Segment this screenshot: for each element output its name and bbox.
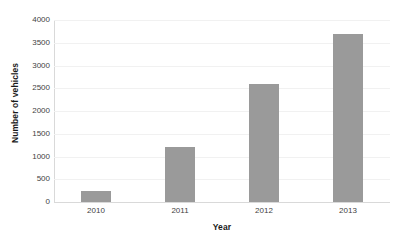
- bars-layer: [54, 20, 390, 202]
- bar[interactable]: [165, 147, 195, 202]
- y-axis-tick-labels: 05001000150020002500300035004000: [0, 20, 50, 202]
- x-axis-tick-label: 2010: [87, 205, 105, 217]
- bar-slot: [306, 20, 390, 202]
- y-axis-tick-label: 0: [4, 198, 50, 206]
- x-axis-tick-labels: 2010201120122013: [54, 205, 390, 219]
- y-axis-tick-label: 500: [4, 175, 50, 183]
- x-axis-title: Year: [54, 222, 390, 232]
- bar-slot: [138, 20, 222, 202]
- y-axis-tick-label: 3500: [4, 39, 50, 47]
- bar-slot: [54, 20, 138, 202]
- y-axis-tick-label: 4000: [4, 16, 50, 24]
- y-axis-tick-label: 1000: [4, 153, 50, 161]
- x-axis-tick-label: 2013: [339, 205, 357, 217]
- bar-chart: Number of vehicles 050010001500200025003…: [0, 0, 402, 244]
- plot-area: [54, 20, 390, 202]
- gridline: [54, 202, 390, 203]
- bar-slot: [222, 20, 306, 202]
- bar[interactable]: [81, 191, 111, 202]
- x-axis-tick-label: 2012: [255, 205, 273, 217]
- y-axis-tick-label: 3000: [4, 62, 50, 70]
- y-axis-tick-label: 2500: [4, 84, 50, 92]
- y-axis-tick-label: 1500: [4, 130, 50, 138]
- bar[interactable]: [249, 84, 279, 202]
- bar[interactable]: [333, 34, 363, 202]
- y-axis-tick-label: 2000: [4, 107, 50, 115]
- x-axis-tick-label: 2011: [171, 205, 188, 217]
